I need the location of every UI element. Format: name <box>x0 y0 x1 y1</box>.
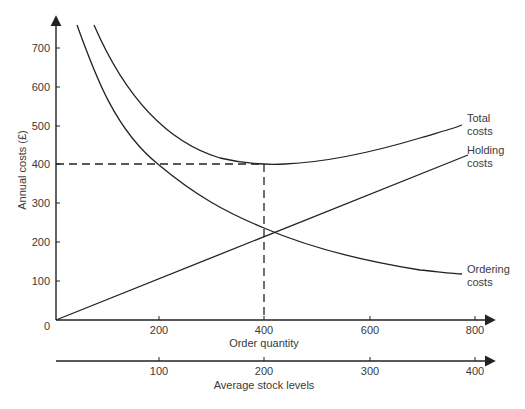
holding-costs-line <box>56 155 468 320</box>
svg-text:costs: costs <box>467 157 493 169</box>
y-axis-label: Annual costs (£) <box>16 130 28 209</box>
svg-text:600: 600 <box>32 81 50 93</box>
svg-text:500: 500 <box>32 120 50 132</box>
total-costs-curve <box>94 25 462 164</box>
svg-text:0: 0 <box>44 320 50 332</box>
svg-text:400: 400 <box>466 365 484 377</box>
svg-text:100: 100 <box>32 275 50 287</box>
svg-text:300: 300 <box>32 197 50 209</box>
svg-text:700: 700 <box>32 42 50 54</box>
svg-text:Holding: Holding <box>467 144 504 156</box>
svg-text:300: 300 <box>361 365 379 377</box>
svg-text:Ordering: Ordering <box>467 263 510 275</box>
svg-text:800: 800 <box>466 324 484 336</box>
eoq-chart: 100 200 300 400 500 600 700 0 200 400 60… <box>0 0 525 409</box>
ordering-costs-label: Ordering costs <box>467 263 510 288</box>
svg-text:100: 100 <box>150 365 168 377</box>
svg-text:200: 200 <box>255 365 273 377</box>
ordering-costs-curve <box>77 25 462 274</box>
x2-tick-labels: 100 200 300 400 <box>150 365 484 377</box>
svg-text:200: 200 <box>150 324 168 336</box>
svg-text:Total: Total <box>467 112 490 124</box>
holding-costs-label: Holding costs <box>467 144 504 169</box>
svg-text:400: 400 <box>32 158 50 170</box>
x-axis-label: Order quantity <box>229 337 299 349</box>
y-tick-labels: 100 200 300 400 500 600 700 <box>32 42 50 287</box>
svg-text:costs: costs <box>467 125 493 137</box>
svg-text:600: 600 <box>361 324 379 336</box>
svg-text:400: 400 <box>255 324 273 336</box>
x-tick-labels: 0 200 400 600 800 <box>44 320 484 336</box>
total-costs-label: Total costs <box>467 112 493 137</box>
svg-text:200: 200 <box>32 236 50 248</box>
x2-axis-label: Average stock levels <box>214 379 315 391</box>
svg-text:costs: costs <box>467 276 493 288</box>
